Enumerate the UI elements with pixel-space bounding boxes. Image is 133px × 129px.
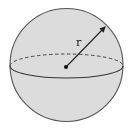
sphere-outline [10, 9, 123, 122]
radius-label: r [76, 36, 82, 49]
center-point [64, 65, 68, 69]
sphere-diagram: r [0, 0, 133, 129]
